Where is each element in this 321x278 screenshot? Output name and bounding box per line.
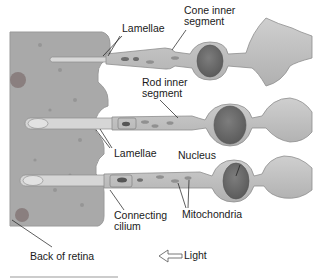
label-back-of-retina: Back of retina — [30, 251, 94, 262]
label-rod-inner-segment: Rod inner segment — [142, 77, 188, 99]
label-lamellae-middle: Lamellae — [114, 148, 157, 159]
label-nucleus: Nucleus — [178, 150, 216, 161]
label-mitochondria: Mitochondria — [182, 209, 242, 220]
label-lamellae-top: Lamellae — [122, 23, 165, 34]
label-connecting-cilium: Connecting cilium — [114, 210, 167, 232]
label-line: segment — [142, 88, 188, 99]
label-light: Light — [184, 250, 207, 261]
label-cone-inner-segment: Cone inner segment — [184, 5, 235, 27]
light-arrow-icon — [159, 250, 182, 262]
label-line: cilium — [114, 221, 167, 232]
label-line: segment — [184, 16, 235, 27]
photoreceptor-diagram — [0, 0, 321, 278]
